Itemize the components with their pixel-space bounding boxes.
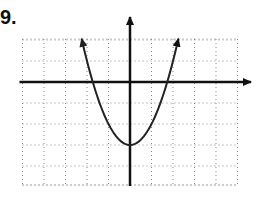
coordinate-plane xyxy=(0,0,262,209)
